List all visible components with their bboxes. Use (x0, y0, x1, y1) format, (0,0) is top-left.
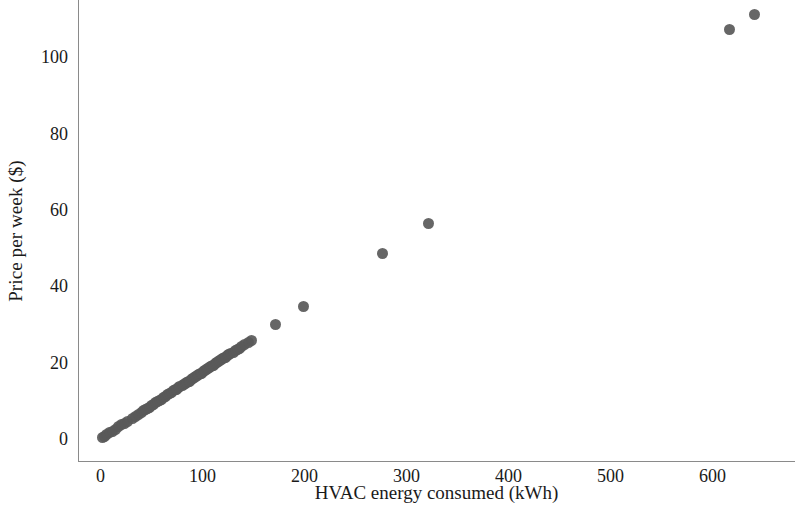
x-axis-title-text: HVAC energy consumed (kWh) (315, 482, 559, 503)
y-tick-label: 0 (59, 429, 68, 450)
data-point (423, 218, 434, 229)
y-axis-spine (78, 0, 79, 462)
data-point (246, 335, 257, 346)
data-point (270, 319, 281, 330)
data-point (377, 248, 388, 259)
y-tick-label: 100 (41, 47, 68, 68)
plot-area (78, 0, 795, 462)
scatter-chart-figure: Price per week ($) 020406080100 01002003… (0, 0, 807, 516)
y-tick-label: 60 (50, 200, 68, 221)
data-point (298, 301, 309, 312)
data-point (724, 24, 735, 35)
y-tick-label: 40 (50, 276, 68, 297)
y-axis-tick-labels: 020406080100 (0, 0, 68, 462)
data-point (749, 9, 760, 20)
y-tick-label: 20 (50, 352, 68, 373)
y-tick-label: 80 (50, 123, 68, 144)
x-axis-spine (78, 461, 795, 462)
x-axis-title: HVAC energy consumed (kWh) (78, 482, 795, 504)
